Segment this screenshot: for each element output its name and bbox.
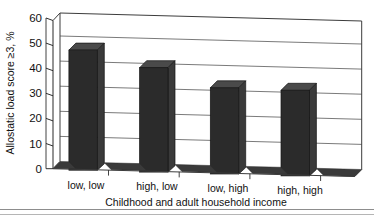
y-tick-label-60: 60 (29, 12, 42, 24)
y-tick-label-10: 10 (29, 138, 42, 150)
page-divider-bottom (0, 214, 374, 215)
y-tick-label-30: 30 (29, 87, 42, 99)
x-axis-title: Childhood and adult household income (105, 196, 287, 208)
y-tick-label-0: 0 (36, 163, 42, 175)
bar-chart-svg: 60 50 40 30 20 10 0 Allostatic load scor… (0, 0, 374, 222)
y-tick-label-20: 20 (29, 112, 42, 124)
bar-low-high (210, 81, 245, 174)
x-tick-label-low-high: low, high (208, 182, 249, 194)
x-tick-label-high-high: high, high (277, 184, 323, 196)
y-tick-label-40: 40 (29, 62, 42, 74)
y-axis-title: Allostatic load score ≥3, % (4, 31, 16, 154)
x-tick-label-high-low: high, low (136, 180, 178, 192)
bar-low-low (69, 43, 104, 170)
bar-high-low (140, 61, 175, 172)
x-tick-labels: low, low high, low low, high high, high (68, 179, 323, 196)
bar-high-high (281, 83, 316, 176)
chart-figure: 60 50 40 30 20 10 0 Allostatic load scor… (0, 0, 374, 222)
y-axis-ticks (46, 18, 53, 169)
page-divider-top (0, 209, 374, 210)
x-tick-label-low-low: low, low (68, 179, 105, 191)
y-tick-label-50: 50 (29, 37, 42, 49)
y-tick-labels: 60 50 40 30 20 10 0 (29, 12, 42, 175)
